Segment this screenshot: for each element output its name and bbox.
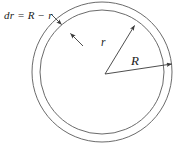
inner-radius-label: r xyxy=(101,37,105,49)
thickness-leader-inner-arrow xyxy=(71,34,84,47)
annulus-figure: dr = R − r r R xyxy=(0,0,179,146)
annulus-diagram-canvas xyxy=(0,0,179,146)
outer-circle xyxy=(32,2,172,142)
outer-radius-label: R xyxy=(131,54,139,67)
thickness-label: dr = R − r xyxy=(4,10,53,21)
inner-circle xyxy=(40,10,164,134)
